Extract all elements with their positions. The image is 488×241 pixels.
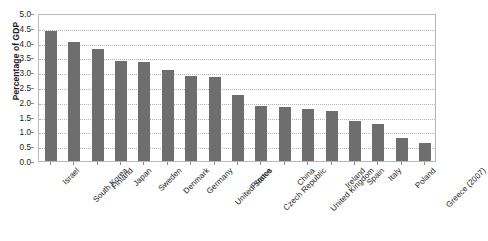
y-tick-label: 4.0 <box>20 39 31 48</box>
x-tick-label: Italy <box>387 166 404 183</box>
bar[interactable] <box>396 138 408 161</box>
x-tick-mark <box>214 162 215 165</box>
y-tick-label: 1.0 <box>20 128 31 137</box>
bar[interactable] <box>279 107 291 161</box>
bar[interactable] <box>419 143 431 161</box>
bars-container <box>39 15 435 161</box>
y-tick-label: 3.0 <box>20 69 31 78</box>
x-tick-mark <box>377 162 378 165</box>
x-axis-tick-labels: IsraelSouth KoreaFinlandJapanSwedenDenma… <box>38 166 446 241</box>
y-tick-mark <box>31 118 34 119</box>
y-tick-label: 1.5 <box>20 113 31 122</box>
y-tick-label: 0.0 <box>20 158 31 167</box>
bar[interactable] <box>326 111 338 161</box>
x-tick-label: Poland <box>413 166 437 190</box>
y-tick-mark <box>31 147 34 148</box>
x-tick-mark <box>190 162 191 165</box>
y-tick-mark <box>31 73 34 74</box>
x-tick-mark <box>73 162 74 165</box>
y-tick-label: 2.5 <box>20 84 31 93</box>
x-tick-mark <box>307 162 308 165</box>
bar[interactable] <box>372 124 384 161</box>
bar[interactable] <box>92 49 104 161</box>
bar[interactable] <box>209 77 221 161</box>
bar[interactable] <box>68 42 80 161</box>
y-tick-label: 4.5 <box>20 24 31 33</box>
y-tick-mark <box>31 162 34 163</box>
x-tick-mark <box>331 162 332 165</box>
y-tick-mark <box>31 58 34 59</box>
y-tick-mark <box>31 44 34 45</box>
x-tick-label: Japan <box>131 166 153 188</box>
bar[interactable] <box>302 109 314 161</box>
y-tick-label: 0.5 <box>20 143 31 152</box>
bar[interactable] <box>185 76 197 161</box>
x-tick-mark <box>401 162 402 165</box>
x-tick-mark <box>237 162 238 165</box>
bar[interactable] <box>138 62 150 161</box>
y-tick-label: 5.0 <box>20 10 31 19</box>
y-tick-label: 3.5 <box>20 54 31 63</box>
bar[interactable] <box>349 121 361 161</box>
y-tick-mark <box>31 88 34 89</box>
x-tick-mark <box>120 162 121 165</box>
x-tick-mark <box>50 162 51 165</box>
y-axis-tick-labels: 0.00.51.01.52.02.53.03.54.04.55.0 <box>0 14 34 162</box>
x-tick-mark <box>284 162 285 165</box>
y-tick-mark <box>31 29 34 30</box>
x-tick-label: Sweden <box>157 166 184 193</box>
y-tick-mark <box>31 103 34 104</box>
bar[interactable] <box>232 95 244 161</box>
x-tick-mark <box>424 162 425 165</box>
bar[interactable] <box>45 31 57 161</box>
bar[interactable] <box>162 70 174 161</box>
y-tick-label: 2.0 <box>20 98 31 107</box>
x-tick-mark <box>354 162 355 165</box>
y-tick-mark <box>31 132 34 133</box>
plot-area <box>38 14 436 162</box>
bar[interactable] <box>115 61 127 161</box>
x-tick-label: France <box>249 166 273 190</box>
x-tick-mark <box>143 162 144 165</box>
x-tick-mark <box>260 162 261 165</box>
x-tick-mark <box>97 162 98 165</box>
x-tick-label: Israel <box>61 166 81 186</box>
x-tick-mark <box>167 162 168 165</box>
x-axis-tick-marks <box>38 162 436 165</box>
x-tick-label: Greece (2007) <box>445 166 488 209</box>
y-tick-mark <box>31 14 34 15</box>
bar[interactable] <box>255 106 267 161</box>
